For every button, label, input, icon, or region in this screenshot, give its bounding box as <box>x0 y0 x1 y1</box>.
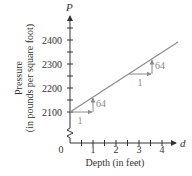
y-tick-label: 2100 <box>42 107 62 118</box>
y-axis <box>67 16 73 143</box>
slope-triangle-2: 1 64 <box>129 60 165 88</box>
x-tick-label: 3 <box>137 144 142 155</box>
data-line <box>70 42 178 112</box>
pressure-depth-chart: P d 2400 2300 2200 2100 0 1 2 3 4 Depth … <box>0 0 192 176</box>
x-tick-label: 1 <box>91 144 96 155</box>
rise-label: 64 <box>155 60 165 71</box>
run-label: 1 <box>138 77 143 88</box>
y-axis-title-line1: Pressure <box>13 61 24 95</box>
y-axis-letter: P <box>65 1 73 13</box>
x-tick-label-zero: 0 <box>59 144 64 155</box>
x-axis-title: Depth (in feet) <box>86 157 145 169</box>
y-tick-label: 2400 <box>42 35 62 46</box>
y-tick-label: 2200 <box>42 83 62 94</box>
y-tick-label: 2300 <box>42 59 62 70</box>
slope-triangle-1: 1 64 <box>71 98 106 126</box>
axis-break-icon <box>67 126 73 143</box>
x-tick-label: 4 <box>160 144 165 155</box>
y-axis-title-line2: (in pounds per square foot) <box>24 24 36 132</box>
y-axis-title: Pressure (in pounds per square foot) <box>13 24 36 132</box>
run-label: 1 <box>78 115 83 126</box>
x-axis-letter: d <box>180 137 186 149</box>
rise-label: 64 <box>96 98 106 109</box>
x-tick-label: 2 <box>114 144 119 155</box>
